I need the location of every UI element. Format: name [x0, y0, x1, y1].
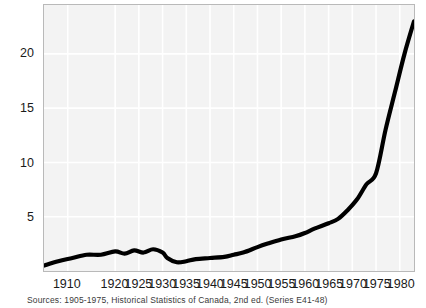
data-series-line: [44, 5, 414, 271]
y-axis-tick-label: 20: [0, 47, 34, 59]
y-axis-tick-label: 5: [0, 211, 34, 223]
y-axis-tick-label: 15: [0, 102, 34, 114]
chart-figure: 5101520 19101920192519301935194019451950…: [0, 0, 426, 308]
y-axis-tick-label: 10: [0, 157, 34, 169]
x-axis-tick-label: 1980: [386, 277, 416, 291]
plot-area: [43, 4, 415, 272]
x-axis-tick-labels: 1910192019251930193519401945195019551960…: [0, 277, 426, 293]
x-axis-tick-label: 1910: [52, 277, 82, 291]
source-note: Sources: 1905-1975, Historical Statistic…: [27, 295, 328, 305]
